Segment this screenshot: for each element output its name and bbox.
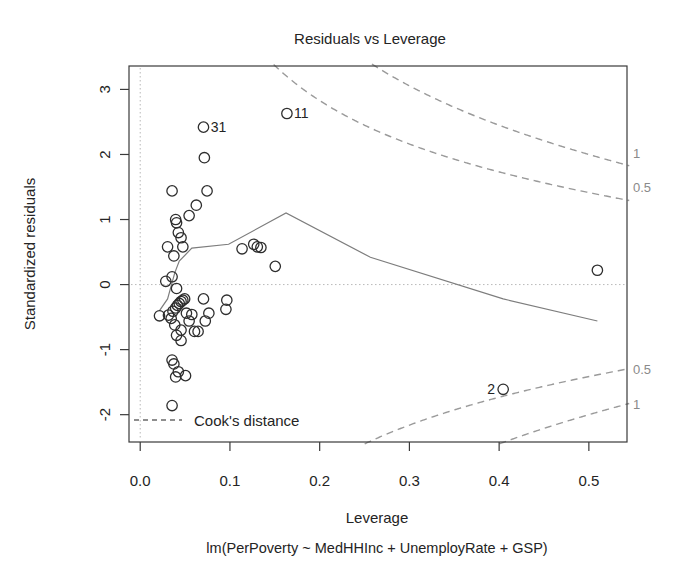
x-tick-label: 0.0 <box>130 472 151 489</box>
data-point <box>270 261 280 271</box>
data-point <box>282 108 292 118</box>
cooks-contour-1-upper <box>372 64 629 166</box>
cooks-contour-label: 1 <box>633 397 640 412</box>
x-tick-label: 0.4 <box>489 472 510 489</box>
y-tick-label: -1 <box>96 343 113 356</box>
data-point <box>199 153 209 163</box>
y-tick-label: 2 <box>96 150 113 158</box>
data-point <box>498 384 508 394</box>
data-point <box>162 242 172 252</box>
y-tick-label: 0 <box>96 280 113 288</box>
outlier-point-labels: 11312 <box>211 105 496 397</box>
cooks-legend-label: Cook's distance <box>194 412 299 429</box>
x-tick-label: 0.3 <box>399 472 420 489</box>
data-point <box>198 122 208 132</box>
cooks-contour-label: 1 <box>633 146 640 161</box>
plot-axes: 0.00.10.20.30.40.53210-1-2 <box>96 66 627 489</box>
data-point <box>237 244 247 254</box>
y-axis-label: Standardized residuals <box>21 178 38 331</box>
y-tick-label: -2 <box>96 408 113 421</box>
y-tick-label: 1 <box>96 215 113 223</box>
data-point <box>202 186 212 196</box>
data-point <box>167 186 177 196</box>
model-formula-sublabel: lm(PerPoverty ~ MedHHInc + UnemployRate … <box>206 540 547 556</box>
data-point <box>169 359 179 369</box>
cooks-distance-contours <box>274 64 630 444</box>
data-point <box>198 294 208 304</box>
point-label-11: 11 <box>294 105 309 121</box>
cooks-contour-label: 0.5 <box>633 180 651 195</box>
cooks-contour-labels: 10.50.51 <box>633 146 651 412</box>
cooks-contour-0p5-upper <box>274 64 630 200</box>
data-point <box>171 283 181 293</box>
y-tick-label: 3 <box>96 85 113 93</box>
page-title: Residuals vs Leverage <box>294 30 446 47</box>
cooks-distance-legend: Cook's distance <box>134 412 299 429</box>
x-tick-label: 0.1 <box>220 472 241 489</box>
cooks-contour-0p5-lower <box>365 369 630 444</box>
data-point <box>592 265 602 275</box>
data-point <box>169 251 179 261</box>
data-point <box>184 210 194 220</box>
x-tick-label: 0.5 <box>578 472 599 489</box>
data-point <box>191 200 201 210</box>
x-tick-label: 0.2 <box>309 472 330 489</box>
point-label-31: 31 <box>211 119 227 135</box>
residuals-vs-leverage-plot: 11312 0.00.10.20.30.40.53210-1-2 10.50.5… <box>0 0 682 586</box>
x-axis-label: Leverage <box>346 509 409 526</box>
cooks-contour-label: 0.5 <box>633 362 651 377</box>
point-label-2: 2 <box>487 381 495 397</box>
chart-canvas: 11312 0.00.10.20.30.40.53210-1-2 10.50.5… <box>0 0 682 586</box>
cooks-contour-1-lower <box>499 403 629 443</box>
data-point <box>167 400 177 410</box>
